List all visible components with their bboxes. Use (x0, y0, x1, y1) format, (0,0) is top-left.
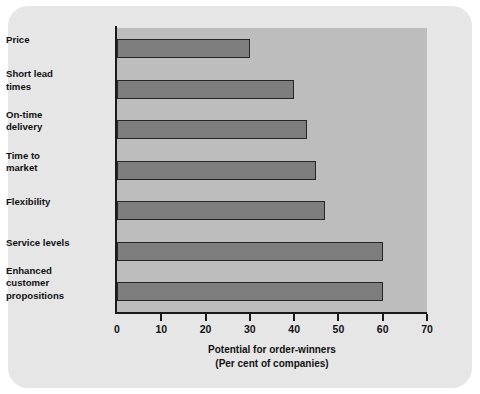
y-axis-label-line: delivery (6, 121, 102, 134)
x-tick-label: 30 (230, 323, 270, 335)
y-axis-label-line: Price (6, 34, 102, 47)
y-axis-label: Service levels (6, 237, 102, 250)
x-tick-mark (293, 314, 295, 321)
x-tick-label: 0 (97, 323, 137, 335)
x-tick-mark (249, 314, 251, 321)
x-tick-label: 70 (407, 323, 447, 335)
x-tick-mark (382, 314, 384, 321)
x-tick-mark (205, 314, 207, 321)
y-axis-label-line: On-time (6, 109, 102, 122)
bar-slot (117, 109, 427, 150)
bar-slot (117, 190, 427, 231)
y-axis-label-line: market (6, 162, 102, 175)
x-tick-label: 60 (363, 323, 403, 335)
y-axis-label: Short leadtimes (6, 68, 102, 93)
bar-series (117, 28, 427, 312)
x-tick-mark (426, 314, 428, 321)
bar[interactable] (117, 80, 294, 99)
bar[interactable] (117, 282, 383, 301)
x-axis-title-line1: Potential for order-winners (117, 343, 427, 357)
x-tick-mark (160, 314, 162, 321)
bar-slot (117, 271, 427, 312)
y-axis-label-line: Short lead (6, 68, 102, 81)
bar[interactable] (117, 120, 307, 139)
y-axis-label: Flexibility (6, 196, 102, 209)
y-axis-label: Enhancedcustomerpropositions (6, 265, 102, 303)
bar[interactable] (117, 39, 250, 58)
x-tick-mark (337, 314, 339, 321)
y-axis-category-labels: PriceShort leadtimesOn-timedeliveryTime … (0, 28, 112, 312)
y-axis-label-line: customer (6, 277, 102, 290)
figure-root: PriceShort leadtimesOn-timedeliveryTime … (0, 0, 480, 394)
x-axis-ticks: 010203040506070 (117, 314, 427, 340)
y-axis-label-line: times (6, 81, 102, 94)
x-tick-label: 20 (186, 323, 226, 335)
y-axis-label-line: Enhanced (6, 265, 102, 278)
x-tick-label: 50 (318, 323, 358, 335)
y-axis-label: Price (6, 34, 102, 47)
y-axis-label-line: propositions (6, 290, 102, 303)
y-axis-label: On-timedelivery (6, 109, 102, 134)
y-axis-label-line: Time to (6, 150, 102, 163)
bar[interactable] (117, 242, 383, 261)
x-axis-title: Potential for order-winners (Per cent of… (117, 343, 427, 370)
bar-slot (117, 69, 427, 110)
y-axis-label: Time tomarket (6, 150, 102, 175)
x-tick-label: 40 (274, 323, 314, 335)
bar[interactable] (117, 201, 325, 220)
bar-slot (117, 28, 427, 69)
bar-slot (117, 231, 427, 272)
x-tick-label: 10 (141, 323, 181, 335)
bar-slot (117, 150, 427, 191)
x-axis-title-line2: (Per cent of companies) (117, 357, 427, 371)
bar[interactable] (117, 161, 316, 180)
y-axis-label-line: Flexibility (6, 196, 102, 209)
y-axis-label-line: Service levels (6, 237, 102, 250)
